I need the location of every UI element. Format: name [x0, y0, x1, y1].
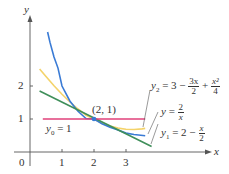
x-tick-label-1: 1 — [59, 157, 65, 168]
origin-label: 0 — [19, 157, 25, 168]
x-tick-label-2: 2 — [91, 157, 97, 168]
tangent-point-marker — [92, 117, 97, 122]
y0-equation-label: y0 = 1 — [46, 123, 72, 137]
y-ticks — [30, 86, 33, 119]
y2-equation-label: y2 = 3 − 3x2 + x²4 — [151, 77, 220, 96]
y-axis-arrow-icon — [28, 15, 33, 22]
x-tick-label-3: 3 — [123, 157, 129, 168]
x-axis-label: x — [214, 146, 219, 157]
y-tick-label-2: 2 — [18, 80, 24, 91]
y1-equation-label: y1 = 2 − x2 — [161, 124, 205, 143]
point-label: (2, 1) — [92, 104, 116, 115]
y-axis-label: y — [24, 4, 29, 15]
y-tick-label-1: 1 — [18, 113, 24, 124]
y-equation-label: y = 2x — [161, 103, 184, 122]
curve-y-2-over-x — [48, 32, 146, 136]
x-axis-arrow-icon — [205, 150, 212, 155]
leader-lines — [143, 90, 158, 144]
